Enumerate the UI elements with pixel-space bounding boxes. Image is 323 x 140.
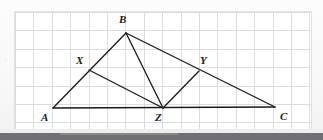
grid-lines <box>15 12 311 129</box>
bottom-dark-bar <box>0 133 323 140</box>
grid-paper-panel <box>15 12 311 129</box>
bottom-bar-highlight <box>60 133 178 135</box>
vertex-label-b: B <box>119 14 126 25</box>
vertex-label-x: X <box>76 55 83 66</box>
vertex-label-z: Z <box>155 112 162 123</box>
geometry-diagram-screenshot: · ABCXYZ <box>0 0 323 140</box>
margin-speck-mark: · <box>3 58 8 63</box>
vertex-label-a: A <box>41 112 48 123</box>
vertex-label-c: C <box>280 111 287 122</box>
vertex-label-y: Y <box>200 55 207 66</box>
